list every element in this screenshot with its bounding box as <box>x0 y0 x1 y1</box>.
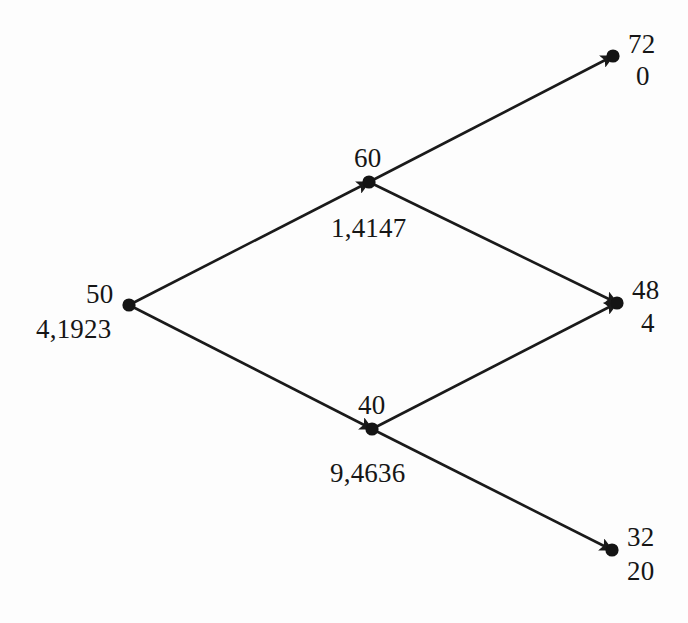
node-up[interactable] <box>362 175 375 188</box>
node-label-mid-secondary: 4 <box>641 310 655 337</box>
node-label-up-up-primary: 72 <box>628 31 655 58</box>
edge-down-to-mid <box>372 303 617 429</box>
node-label-up-up-secondary: 0 <box>636 63 650 90</box>
node-mid[interactable] <box>610 296 623 309</box>
edge-root-to-down <box>129 305 372 429</box>
node-label-down-primary: 40 <box>358 392 385 419</box>
diagram-canvas: 50 4,1923 60 1,4147 40 9,4636 72 0 48 4 … <box>0 0 688 623</box>
node-up-up[interactable] <box>606 49 619 62</box>
node-label-up-secondary: 1,4147 <box>331 215 406 242</box>
node-label-mid-primary: 48 <box>632 277 659 304</box>
node-label-root-secondary: 4,1923 <box>36 316 111 343</box>
edge-root-to-up <box>129 182 369 305</box>
edge-down-to-downdown <box>372 429 612 550</box>
node-label-down-down-secondary: 20 <box>627 558 654 585</box>
node-label-root-primary: 50 <box>86 281 113 308</box>
node-down-down[interactable] <box>605 543 618 556</box>
node-label-down-down-primary: 32 <box>627 524 654 551</box>
lattice-svg <box>0 0 688 623</box>
node-label-up-primary: 60 <box>354 145 381 172</box>
node-label-down-secondary: 9,4636 <box>330 460 405 487</box>
edge-up-to-upup <box>369 56 613 182</box>
node-root[interactable] <box>122 298 135 311</box>
edge-up-to-mid <box>369 182 617 303</box>
node-down[interactable] <box>365 422 378 435</box>
